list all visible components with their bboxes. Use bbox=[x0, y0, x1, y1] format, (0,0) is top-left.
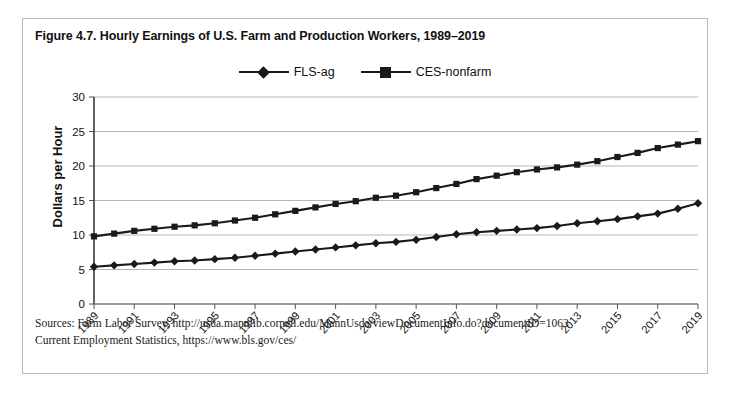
data-point-fls-ag bbox=[251, 252, 259, 260]
data-point-fls-ag bbox=[311, 245, 319, 253]
data-point-ces-nonfarm bbox=[413, 189, 419, 195]
y-tick-label: 15 bbox=[72, 195, 85, 207]
y-tick-label: 30 bbox=[72, 91, 85, 103]
data-point-ces-nonfarm bbox=[232, 217, 238, 223]
series-line-ces-nonfarm bbox=[94, 141, 698, 236]
data-point-ces-nonfarm bbox=[212, 220, 218, 226]
data-point-ces-nonfarm bbox=[635, 150, 641, 156]
data-point-fls-ag bbox=[271, 249, 279, 257]
data-point-fls-ag bbox=[190, 256, 198, 264]
data-point-fls-ag bbox=[593, 217, 601, 225]
data-point-ces-nonfarm bbox=[333, 201, 339, 207]
data-point-ces-nonfarm bbox=[91, 233, 97, 239]
data-point-ces-nonfarm bbox=[655, 145, 661, 151]
data-point-ces-nonfarm bbox=[594, 158, 600, 164]
data-point-fls-ag bbox=[654, 209, 662, 217]
data-point-ces-nonfarm bbox=[252, 215, 258, 221]
data-point-ces-nonfarm bbox=[353, 198, 359, 204]
y-tick-label: 10 bbox=[72, 229, 85, 241]
data-point-fls-ag bbox=[110, 261, 118, 269]
data-point-fls-ag bbox=[674, 205, 682, 213]
data-point-ces-nonfarm bbox=[111, 231, 117, 237]
data-point-ces-nonfarm bbox=[494, 173, 500, 179]
data-point-ces-nonfarm bbox=[151, 226, 157, 232]
data-point-fls-ag bbox=[130, 260, 138, 268]
data-point-fls-ag bbox=[513, 225, 521, 233]
y-tick-label: 20 bbox=[72, 160, 85, 172]
data-point-fls-ag bbox=[170, 257, 178, 265]
data-point-ces-nonfarm bbox=[453, 181, 459, 187]
data-point-ces-nonfarm bbox=[192, 222, 198, 228]
data-point-ces-nonfarm bbox=[534, 166, 540, 172]
data-point-ces-nonfarm bbox=[554, 164, 560, 170]
data-point-ces-nonfarm bbox=[131, 228, 137, 234]
y-tick-label: 25 bbox=[72, 126, 85, 138]
data-point-fls-ag bbox=[372, 239, 380, 247]
data-point-fls-ag bbox=[150, 258, 158, 266]
data-point-ces-nonfarm bbox=[614, 154, 620, 160]
data-point-fls-ag bbox=[452, 230, 460, 238]
data-point-ces-nonfarm bbox=[695, 138, 701, 144]
data-point-fls-ag bbox=[573, 219, 581, 227]
data-point-fls-ag bbox=[553, 222, 561, 230]
data-point-ces-nonfarm bbox=[312, 204, 318, 210]
source-line-1: Sources: Farm Labor Survey, http://usda.… bbox=[35, 315, 569, 332]
data-point-fls-ag bbox=[633, 212, 641, 220]
x-tick-label: 2019 bbox=[679, 309, 704, 335]
y-tick-label: 5 bbox=[79, 264, 85, 276]
data-point-fls-ag bbox=[432, 233, 440, 241]
data-point-fls-ag bbox=[291, 247, 299, 255]
data-point-ces-nonfarm bbox=[373, 195, 379, 201]
data-point-fls-ag bbox=[231, 254, 239, 262]
data-point-ces-nonfarm bbox=[272, 211, 278, 217]
data-point-fls-ag bbox=[533, 224, 541, 232]
data-point-ces-nonfarm bbox=[292, 208, 298, 214]
data-point-ces-nonfarm bbox=[393, 193, 399, 199]
data-point-ces-nonfarm bbox=[473, 176, 479, 182]
x-tick-label: 2017 bbox=[639, 309, 664, 335]
x-tick-label: 2015 bbox=[599, 309, 624, 335]
figure-container: Figure 4.7. Hourly Earnings of U.S. Farm… bbox=[22, 18, 708, 374]
data-point-ces-nonfarm bbox=[514, 169, 520, 175]
data-point-ces-nonfarm bbox=[675, 142, 681, 148]
data-point-ces-nonfarm bbox=[171, 224, 177, 230]
y-tick-label: 0 bbox=[79, 298, 85, 310]
data-point-ces-nonfarm bbox=[574, 162, 580, 168]
data-point-fls-ag bbox=[392, 238, 400, 246]
data-point-fls-ag bbox=[211, 255, 219, 263]
data-point-fls-ag bbox=[492, 227, 500, 235]
sources-note: Sources: Farm Labor Survey, http://usda.… bbox=[35, 315, 569, 348]
data-point-fls-ag bbox=[412, 236, 420, 244]
source-line-2: Current Employment Statistics, https://w… bbox=[35, 332, 569, 349]
data-point-fls-ag bbox=[613, 215, 621, 223]
data-point-fls-ag bbox=[352, 241, 360, 249]
data-point-ces-nonfarm bbox=[433, 185, 439, 191]
data-point-fls-ag bbox=[331, 243, 339, 251]
